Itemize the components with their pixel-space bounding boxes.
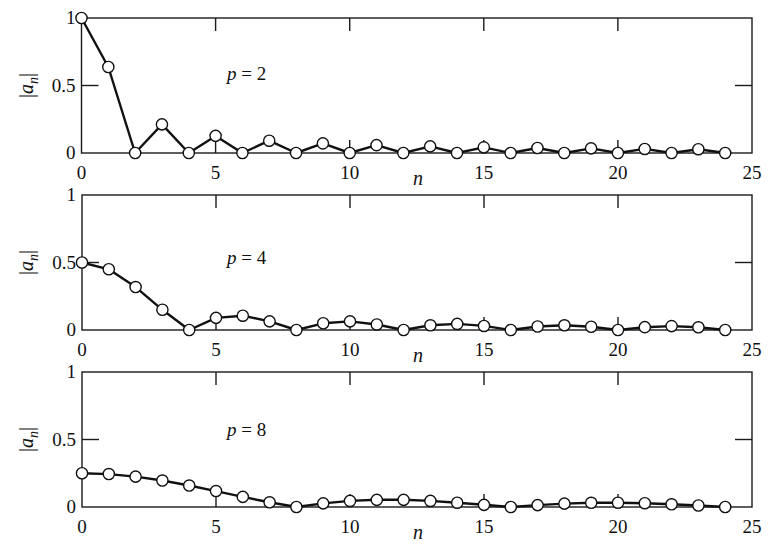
data-point-marker — [425, 320, 436, 331]
data-point-marker — [76, 257, 87, 268]
data-point-marker — [425, 495, 436, 506]
data-point-marker — [666, 499, 677, 510]
data-point-marker — [290, 147, 301, 158]
x-tick-label: 20 — [608, 162, 627, 183]
data-point-marker — [184, 324, 195, 335]
data-point-marker — [157, 475, 168, 486]
data-point-marker — [451, 147, 462, 158]
data-point-marker — [210, 312, 221, 323]
x-tick-label: 15 — [475, 339, 494, 360]
data-point-marker — [264, 316, 275, 327]
data-point-marker — [586, 497, 597, 508]
x-tick-label: 0 — [77, 162, 87, 183]
y-tick-label: 1 — [67, 184, 77, 205]
data-point-marker — [398, 147, 409, 158]
y-tick-label: 0 — [66, 142, 76, 163]
data-point-marker — [264, 497, 275, 508]
data-point-marker — [478, 320, 489, 331]
data-point-marker — [103, 468, 114, 479]
data-point-marker — [318, 498, 329, 509]
data-point-marker — [612, 497, 623, 508]
data-point-marker — [505, 324, 516, 335]
x-tick-label: 15 — [474, 162, 493, 183]
y-tick-label: 0 — [67, 496, 77, 517]
data-point-marker — [559, 147, 570, 158]
data-point-marker — [425, 141, 436, 152]
data-point-marker — [693, 500, 704, 511]
x-axis-label: n — [413, 344, 423, 366]
figure: 051015202500.51|an|np = 2 051015202500.5… — [0, 0, 772, 546]
data-point-marker — [585, 143, 596, 154]
data-point-marker — [666, 320, 677, 331]
x-tick-label: 0 — [77, 339, 87, 360]
x-tick-label: 25 — [743, 339, 762, 360]
data-point-marker — [237, 310, 248, 321]
data-point-marker — [666, 147, 677, 158]
x-axis-label: n — [413, 521, 423, 543]
data-point-marker — [76, 12, 87, 23]
data-point-marker — [693, 322, 704, 333]
x-tick-label: 10 — [341, 339, 360, 360]
data-point-marker — [559, 320, 570, 331]
x-tick-label: 0 — [77, 516, 87, 537]
data-point-marker — [639, 322, 650, 333]
y-tick-label: 0.5 — [52, 429, 76, 450]
data-point-marker — [371, 319, 382, 330]
y-tick-label: 0 — [67, 319, 77, 340]
data-point-marker — [505, 147, 516, 158]
data-point-marker — [452, 497, 463, 508]
data-point-marker — [344, 147, 355, 158]
data-point-marker — [720, 147, 731, 158]
data-point-marker — [237, 491, 248, 502]
data-point-marker — [586, 321, 597, 332]
x-axis-label: n — [413, 167, 423, 189]
y-tick-label: 0.5 — [52, 75, 76, 96]
data-point-marker — [210, 130, 221, 141]
data-point-marker — [693, 144, 704, 155]
y-tick-label: 1 — [67, 361, 77, 382]
parameter-annotation: p = 2 — [225, 63, 266, 84]
data-point-marker — [559, 498, 570, 509]
data-point-marker — [720, 501, 731, 512]
data-point-marker — [532, 500, 543, 511]
data-point-marker — [532, 142, 543, 153]
data-point-marker — [371, 494, 382, 505]
data-point-marker — [291, 501, 302, 512]
data-point-marker — [398, 324, 409, 335]
stem-plot-figure: 051015202500.51|an|np = 2 051015202500.5… — [0, 0, 772, 546]
data-point-marker — [130, 147, 141, 158]
data-point-marker — [157, 304, 168, 315]
data-point-marker — [478, 499, 489, 510]
data-point-marker — [291, 324, 302, 335]
data-point-marker — [344, 495, 355, 506]
data-point-marker — [103, 264, 114, 275]
x-tick-label: 25 — [743, 162, 762, 183]
parameter-annotation: p = 8 — [225, 419, 266, 440]
x-tick-label: 10 — [341, 516, 360, 537]
data-point-marker — [344, 316, 355, 327]
data-point-marker — [639, 143, 650, 154]
data-point-marker — [76, 468, 87, 479]
data-point-marker — [478, 142, 489, 153]
data-point-marker — [317, 138, 328, 149]
x-tick-label: 10 — [340, 162, 359, 183]
x-tick-label: 5 — [211, 516, 221, 537]
data-point-marker — [130, 281, 141, 292]
data-point-marker — [103, 61, 114, 72]
data-point-marker — [532, 321, 543, 332]
data-point-marker — [612, 324, 623, 335]
data-point-marker — [264, 135, 275, 146]
data-point-marker — [156, 119, 167, 130]
y-tick-label: 0.5 — [52, 252, 76, 273]
data-point-marker — [612, 147, 623, 158]
x-tick-label: 25 — [743, 516, 762, 537]
x-tick-label: 20 — [609, 339, 628, 360]
data-point-marker — [184, 480, 195, 491]
data-point-marker — [318, 318, 329, 329]
data-point-marker — [452, 318, 463, 329]
x-tick-label: 15 — [475, 516, 494, 537]
data-point-marker — [210, 485, 221, 496]
data-point-marker — [237, 147, 248, 158]
data-point-marker — [183, 147, 194, 158]
data-point-marker — [130, 471, 141, 482]
